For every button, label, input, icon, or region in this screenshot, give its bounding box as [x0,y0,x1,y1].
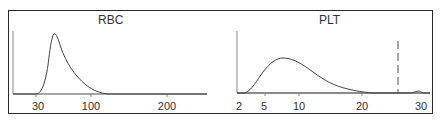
plt-tick-20: 20 [356,100,368,112]
histogram-plots [0,0,440,122]
plt-tick-10: 10 [293,100,305,112]
rbc-tick-200: 200 [158,100,176,112]
plt-curve [237,58,430,93]
plt-title: PLT [319,13,340,27]
plt-tick-2: 2 [236,100,242,112]
plt-tick-30: 30 [415,100,427,112]
rbc-tick-100: 100 [82,100,100,112]
plt-tick-5: 5 [261,100,267,112]
rbc-tick-30: 30 [32,100,44,112]
rbc-title: RBC [98,13,123,27]
plt-axes [237,31,430,96]
rbc-curve [13,34,207,94]
rbc-axes [13,31,207,97]
